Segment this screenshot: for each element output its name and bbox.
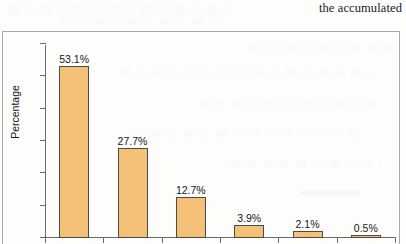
document-header-text: the accumulated [319, 1, 402, 16]
bar: 3.9% [234, 225, 264, 238]
x-tick-mark [45, 237, 46, 243]
plot-area: Percentage 0102030405060 53.1%27.7%12.7%… [3, 32, 399, 244]
bar-value-label: 3.9% [237, 212, 261, 224]
bar: 53.1% [59, 66, 89, 238]
x-tick-mark [278, 237, 279, 243]
y-tick-mark [40, 140, 46, 141]
y-tick-mark [40, 172, 46, 173]
y-axis-line [45, 45, 46, 239]
x-tick-mark [103, 237, 104, 243]
bar: 27.7% [118, 148, 148, 238]
scan-ghosting-top [8, 5, 228, 14]
x-tick-mark [162, 237, 163, 243]
x-tick-mark [337, 237, 338, 243]
y-tick-mark [40, 43, 46, 44]
bar-value-label: 0.5% [354, 222, 378, 234]
bar-value-label: 27.7% [118, 135, 148, 147]
scan-ghosting-top2 [60, 18, 220, 25]
x-tick-mark [220, 237, 221, 243]
y-axis-title: Percentage [9, 57, 21, 167]
y-tick-mark [40, 75, 46, 76]
bar-value-label: 2.1% [296, 218, 320, 230]
bar: 2.1% [293, 231, 323, 238]
y-tick-mark [40, 108, 46, 109]
y-tick-mark [40, 205, 46, 206]
chart-figure: Percentage 0102030405060 53.1%27.7%12.7%… [2, 31, 400, 244]
bar-value-label: 12.7% [176, 184, 206, 196]
bar: 12.7% [176, 197, 206, 238]
x-tick-mark [395, 237, 396, 243]
bar-value-label: 53.1% [59, 53, 89, 65]
bar: 0.5% [351, 235, 381, 238]
